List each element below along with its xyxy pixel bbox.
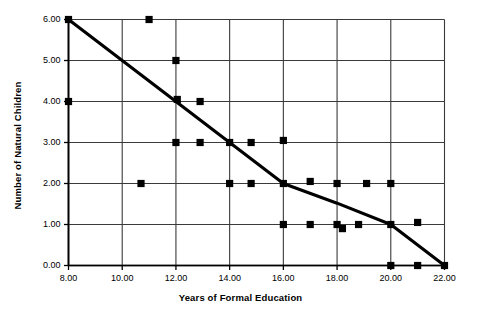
x-tick-label: 22.00 bbox=[422, 273, 468, 283]
x-tick-label: 20.00 bbox=[368, 273, 414, 283]
y-tick-label: 3.00 bbox=[21, 137, 61, 147]
y-tick-label: 0.00 bbox=[21, 260, 61, 270]
y-tick-label: 5.00 bbox=[21, 55, 61, 65]
chart-root: Number of Natural Children Years of Form… bbox=[0, 0, 481, 320]
y-tick-label: 6.00 bbox=[21, 14, 61, 24]
x-tick-label: 18.00 bbox=[314, 273, 360, 283]
y-tick-label: 2.00 bbox=[21, 178, 61, 188]
x-tick-label: 10.00 bbox=[99, 273, 145, 283]
x-tick-label: 12.00 bbox=[153, 273, 199, 283]
x-tick-label: 14.00 bbox=[207, 273, 253, 283]
grid-lines bbox=[69, 20, 445, 266]
x-tick-label: 16.00 bbox=[260, 273, 306, 283]
y-tick-label: 4.00 bbox=[21, 96, 61, 106]
y-tick-label: 1.00 bbox=[21, 219, 61, 229]
x-tick-label: 8.00 bbox=[46, 273, 92, 283]
